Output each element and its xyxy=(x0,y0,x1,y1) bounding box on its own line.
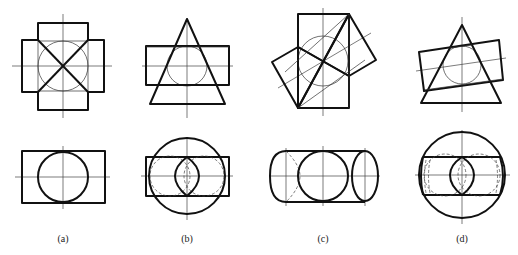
panel-b-bottom-view xyxy=(141,137,233,220)
panel-label-d: (d) xyxy=(456,233,468,244)
panel-a-top-view xyxy=(12,14,112,118)
panel-a-bottom-view xyxy=(15,146,110,209)
panel-b-top-view xyxy=(142,18,233,118)
panel-d-bottom-view xyxy=(415,130,510,224)
panel-label-a: (a) xyxy=(57,233,68,244)
panel-label-b: (b) xyxy=(181,233,193,244)
panel-d-top-view xyxy=(416,17,506,112)
technical-drawing xyxy=(0,0,518,255)
panel-label-c: (c) xyxy=(317,233,328,244)
panel-c-top-view xyxy=(272,8,376,116)
panel-c-bottom-view xyxy=(270,146,380,206)
